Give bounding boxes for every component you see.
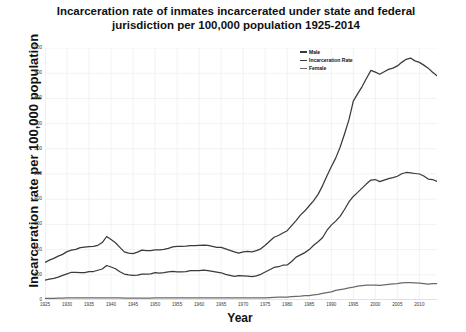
- x-tick-1950: 1950: [144, 302, 166, 307]
- y-tick-700: 700: [24, 121, 42, 126]
- x-tick-1975: 1975: [254, 302, 276, 307]
- x-tick-2010: 2010: [408, 302, 430, 307]
- x-tick-2000: 2000: [364, 302, 386, 307]
- legend-swatch-icon: [300, 68, 307, 70]
- legend-item-incarceration-rate[interactable]: Incarceration Rate: [300, 56, 353, 64]
- chart-figure: Incarceration rate of inmates incarcerat…: [0, 0, 466, 332]
- x-axis-label: Year: [40, 311, 440, 325]
- chart-canvas: [45, 48, 437, 300]
- y-tick-300: 300: [24, 221, 42, 226]
- x-tick-1990: 1990: [320, 302, 342, 307]
- y-tick-600: 600: [24, 146, 42, 151]
- x-tick-1980: 1980: [276, 302, 298, 307]
- y-tick-800: 800: [24, 95, 42, 100]
- x-tick-1930: 1930: [56, 302, 78, 307]
- y-tick-100: 100: [24, 272, 42, 277]
- chart-title-line-2: jurisdiction per 100,000 population 1925…: [40, 18, 432, 32]
- y-tick-200: 200: [24, 247, 42, 252]
- x-tick-1925: 1925: [34, 302, 56, 307]
- x-tick-1945: 1945: [122, 302, 144, 307]
- x-tick-1940: 1940: [100, 302, 122, 307]
- legend-label: Female: [309, 64, 326, 72]
- legend-item-female[interactable]: Female: [300, 64, 353, 72]
- legend-swatch-icon: [300, 60, 307, 62]
- legend-swatch-icon: [300, 51, 307, 53]
- y-tick-400: 400: [24, 196, 42, 201]
- x-tick-1970: 1970: [232, 302, 254, 307]
- x-tick-1955: 1955: [166, 302, 188, 307]
- x-tick-1935: 1935: [78, 302, 100, 307]
- y-tick-1000: 1000: [24, 45, 42, 50]
- x-tick-1960: 1960: [188, 302, 210, 307]
- plot-area: [45, 48, 437, 300]
- x-tick-1995: 1995: [342, 302, 364, 307]
- legend-label: Male: [309, 48, 320, 56]
- x-tick-2005: 2005: [386, 302, 408, 307]
- y-tick-900: 900: [24, 70, 42, 75]
- chart-title: Incarceration rate of inmates incarcerat…: [40, 4, 432, 32]
- legend-item-male[interactable]: Male: [300, 48, 353, 56]
- chart-title-line-1: Incarceration rate of inmates incarcerat…: [40, 4, 432, 18]
- x-tick-1985: 1985: [298, 302, 320, 307]
- chart-legend: MaleIncarceration RateFemale: [300, 48, 353, 73]
- x-tick-1965: 1965: [210, 302, 232, 307]
- y-tick-500: 500: [24, 171, 42, 176]
- legend-label: Incarceration Rate: [309, 56, 353, 64]
